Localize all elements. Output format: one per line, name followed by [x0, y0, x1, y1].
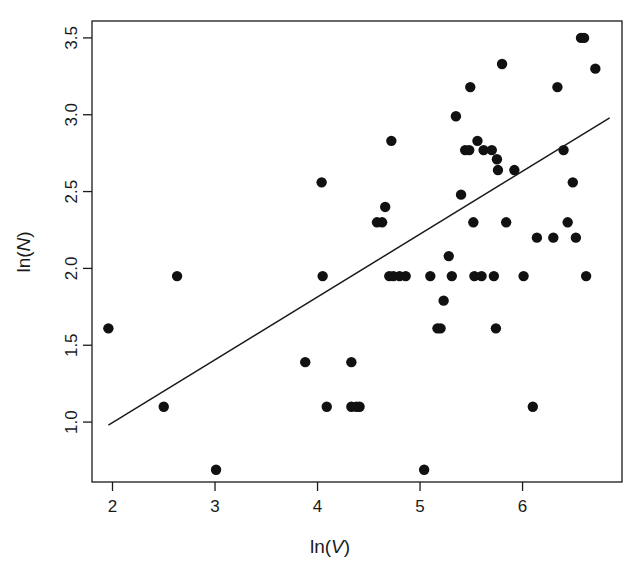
y-tick-label: 1.5: [63, 333, 82, 357]
data-point: [579, 33, 589, 43]
fit-line: [108, 118, 609, 425]
data-point: [472, 136, 482, 146]
data-point: [354, 402, 364, 412]
data-point: [464, 145, 474, 155]
y-axis-title: ln(N): [13, 231, 34, 272]
y-axis-ticks: [83, 38, 92, 422]
data-point: [491, 323, 501, 333]
data-point: [447, 271, 457, 281]
data-point: [400, 271, 410, 281]
plot-canvas: 23456 1.01.52.02.53.03.5 ln(V) ln(N): [0, 0, 638, 570]
data-point: [552, 82, 562, 92]
data-point: [444, 251, 454, 261]
data-point: [487, 145, 497, 155]
x-axis-tick-labels: 23456: [108, 497, 528, 516]
data-point: [476, 271, 486, 281]
data-point: [548, 232, 558, 242]
data-point: [438, 295, 448, 305]
y-tick-label: 2.5: [63, 180, 82, 204]
data-point: [451, 111, 461, 121]
y-tick-label: 2.0: [63, 257, 82, 281]
y-tick-label: 3.0: [63, 103, 82, 127]
scatter-plot-figure: 23456 1.01.52.02.53.03.5 ln(V) ln(N): [0, 0, 638, 570]
x-axis-ticks: [113, 482, 523, 491]
data-point: [562, 217, 572, 227]
data-point: [346, 357, 356, 367]
x-tick-label: 5: [415, 497, 424, 516]
data-point: [492, 154, 502, 164]
data-point: [468, 217, 478, 227]
data-point: [501, 217, 511, 227]
x-tick-label: 6: [518, 497, 527, 516]
data-point: [419, 465, 429, 475]
data-point: [380, 202, 390, 212]
scatter-points: [103, 33, 600, 475]
data-point: [532, 232, 542, 242]
y-tick-label: 3.5: [63, 26, 82, 50]
x-tick-label: 2: [108, 497, 117, 516]
data-point: [590, 63, 600, 73]
data-point: [211, 465, 221, 475]
data-point: [386, 136, 396, 146]
data-point: [465, 82, 475, 92]
data-point: [571, 232, 581, 242]
data-point: [103, 323, 113, 333]
data-point: [493, 165, 503, 175]
x-tick-label: 4: [313, 497, 322, 516]
y-tick-label: 1.0: [63, 410, 82, 434]
x-axis-title: ln(V): [310, 536, 350, 557]
data-point: [581, 271, 591, 281]
data-point: [518, 271, 528, 281]
regression-line: [108, 118, 609, 425]
data-point: [322, 402, 332, 412]
data-point: [435, 323, 445, 333]
data-point: [568, 177, 578, 187]
data-point: [316, 177, 326, 187]
data-point: [172, 271, 182, 281]
data-point: [489, 271, 499, 281]
data-point: [528, 402, 538, 412]
data-point: [497, 59, 507, 69]
x-tick-label: 3: [210, 497, 219, 516]
data-point: [425, 271, 435, 281]
data-point: [456, 189, 466, 199]
plot-frame: [92, 21, 622, 482]
data-point: [377, 217, 387, 227]
plot-border: [92, 21, 622, 482]
data-point: [300, 357, 310, 367]
y-axis-tick-labels: 1.01.52.02.53.03.5: [63, 26, 82, 434]
data-point: [317, 271, 327, 281]
data-point: [159, 402, 169, 412]
